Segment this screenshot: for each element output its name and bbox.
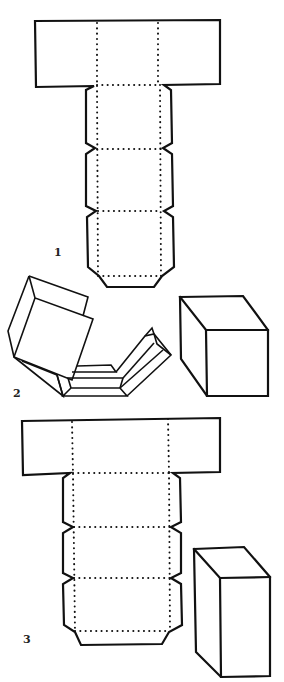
diagram-canvas: 1 2 3 bbox=[0, 0, 284, 682]
figure-2-cube bbox=[180, 296, 268, 396]
figure-2-label: 2 bbox=[13, 387, 21, 400]
figure-3-tall-box bbox=[194, 547, 270, 677]
figure-3-label: 3 bbox=[23, 633, 31, 646]
figure-1-net bbox=[35, 20, 220, 287]
figure-3-net bbox=[22, 418, 220, 645]
box-net-diagram bbox=[0, 0, 284, 682]
figure-2-folding-box bbox=[8, 276, 171, 396]
figure-1-label: 1 bbox=[54, 246, 62, 259]
